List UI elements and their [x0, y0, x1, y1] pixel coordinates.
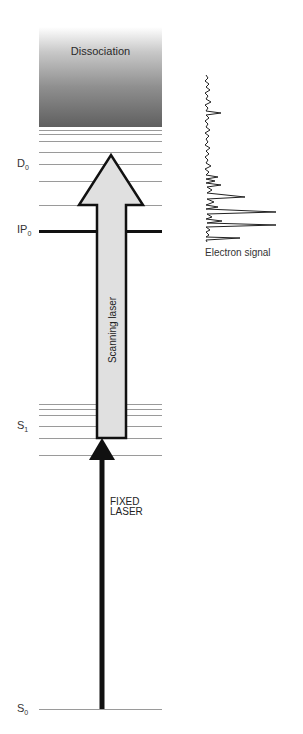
fixed-laser-label-line2: LASER	[110, 507, 143, 517]
fixed-laser-label: FIXED LASER	[110, 497, 143, 517]
electron-signal-label: Electron signal	[205, 247, 271, 258]
fixed-laser-arrowhead-icon	[89, 438, 115, 460]
electron-signal-trace	[205, 75, 276, 242]
scanning-laser-label: Scanning laser	[107, 297, 118, 363]
fixed-laser-shaft	[100, 458, 105, 709]
arrows-and-spectrum	[0, 0, 303, 734]
